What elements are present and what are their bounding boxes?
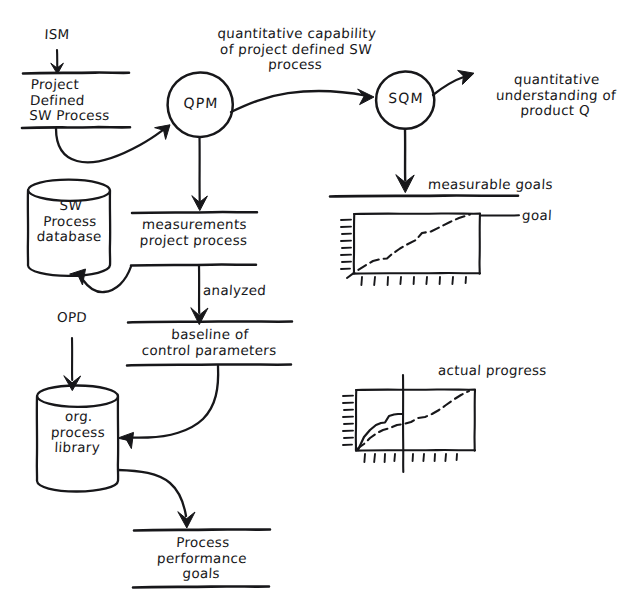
goal-annotation-label: goal: [522, 208, 573, 224]
ism-arrow: [51, 50, 63, 74]
arrow-qpm-to-measurements: [192, 137, 207, 211]
arrow-baseline-to-library: [118, 366, 218, 449]
process-performance-goals-label: Process performance goals: [133, 535, 271, 582]
sw-process-database-label: SW Process database: [29, 198, 111, 245]
project-defined-sw-process-label: Project Defined SW Process: [21, 77, 141, 124]
opd-arrow: [64, 338, 81, 391]
sqm-label: SQM: [377, 91, 436, 107]
ism-label: ISM: [26, 27, 89, 43]
arrow-process-to-qpm: [56, 125, 170, 163]
sqm-output-label: quantitative understanding of product Q: [480, 72, 632, 119]
measurable-goals-chart: [341, 213, 519, 285]
measurable-goals-label: measurable goals: [428, 177, 569, 193]
baseline-control-parameters-label: baseline of control parameters: [126, 327, 293, 358]
arrow-sqm-to-understanding: [433, 71, 474, 96]
measurable-goals-underline: [330, 196, 518, 197]
arrow-library-to-goals: [118, 470, 195, 528]
arrow-sqm-to-measurable-goals: [396, 129, 414, 193]
measurements-project-process-label: measurements project process: [127, 217, 261, 248]
diagram-canvas: ISM Project Defined SW Process QPM SQM q…: [0, 0, 641, 612]
qpm-label: QPM: [170, 96, 233, 112]
analyzed-label: analyzed: [203, 283, 284, 299]
org-process-library-label: org. process library: [38, 409, 118, 456]
qpm-to-sqm-edge-label: quantitative capability of project defin…: [195, 26, 397, 73]
arrow-qpm-to-sqm: [231, 89, 374, 112]
actual-progress-label: actual progress: [438, 363, 589, 379]
opd-label: OPD: [40, 310, 105, 326]
actual-progress-chart: [343, 375, 475, 472]
arrow-measurements-to-database: [70, 267, 131, 293]
